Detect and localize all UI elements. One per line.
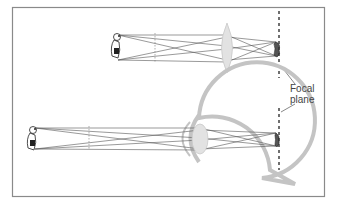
eyeball-outline: [199, 62, 315, 184]
dog-object-icon: [111, 34, 120, 59]
lens-panel: [111, 11, 279, 78]
focal-plane-label: Focal plane: [290, 83, 314, 105]
focal-plane-label-line1: Focal: [290, 83, 314, 94]
light-rays-top: [118, 35, 276, 62]
eye-panel: [27, 62, 315, 184]
figure-frame: [13, 8, 325, 197]
light-rays-bottom: [35, 128, 276, 150]
focal-plane-leader-bottom: [281, 104, 295, 112]
eye-lens: [192, 124, 208, 154]
convex-lens: [222, 23, 233, 73]
focal-plane-label-line2: plane: [290, 94, 314, 105]
optics-diagram: [0, 0, 337, 205]
dog-object-icon: [27, 127, 36, 151]
